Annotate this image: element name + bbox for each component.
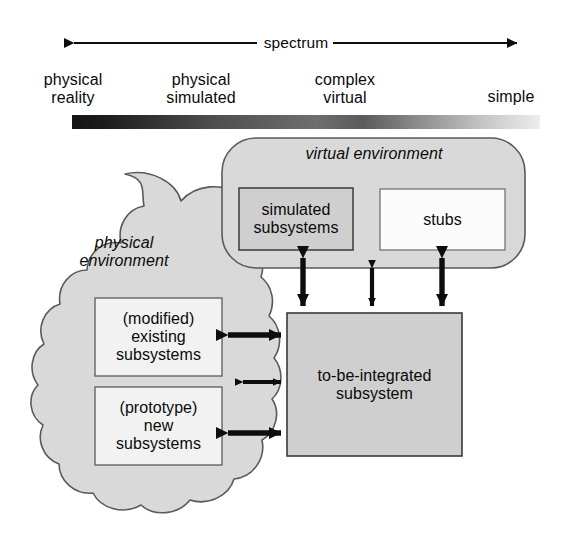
simulated-subsystems-label: simulated subsystems (239, 188, 353, 250)
spectrum-integration-diagram: spectrum physical reality physical simul… (0, 0, 572, 535)
prototype-new-subsystems-label: (prototype) new subsystems (95, 387, 222, 465)
to-be-integrated-subsystem-label: to-be-integrated subsystem (287, 313, 462, 456)
virtual-environment-title: virtual environment (254, 145, 494, 163)
physical-environment-title: physical environment (44, 234, 204, 270)
scale-label-complex-virtual: complex virtual (290, 71, 400, 107)
spectrum-axis-label: spectrum (258, 34, 334, 51)
scale-label-physical-reality: physical reality (18, 71, 128, 107)
modified-existing-subsystems-label: (modified) existing subsystems (95, 298, 222, 376)
scale-label-simple: simple (465, 88, 557, 106)
spectrum-gradient-bar (72, 115, 540, 129)
stubs-label: stubs (380, 189, 505, 250)
scale-label-physical-simulated: physical simulated (140, 71, 262, 107)
